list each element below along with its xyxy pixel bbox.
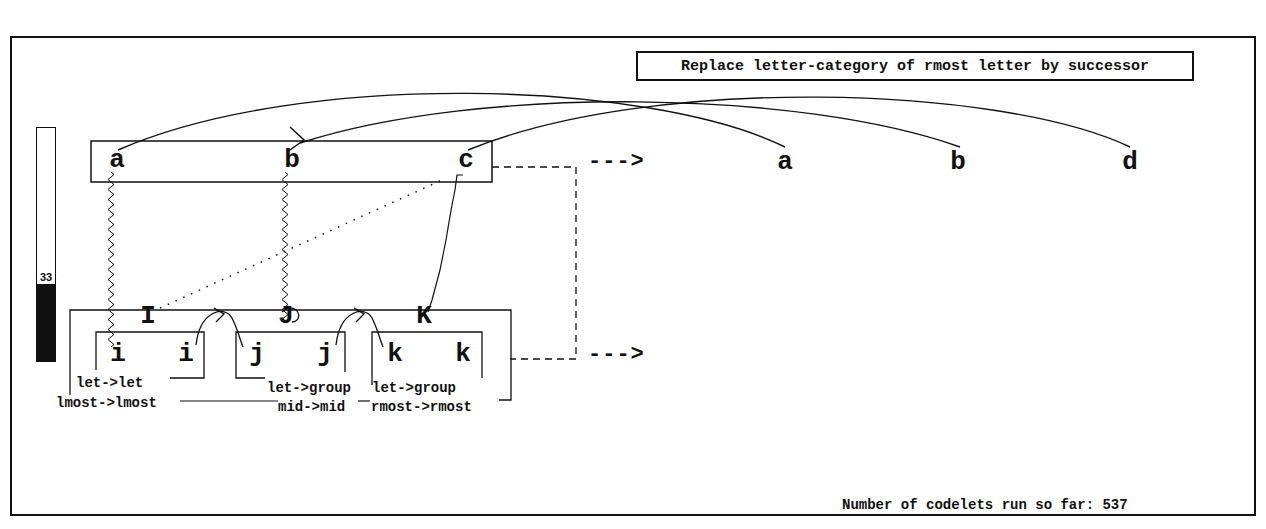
target-letter-j2: j bbox=[317, 341, 333, 367]
target-letter-k2: k bbox=[455, 341, 471, 367]
group-letter-J: J bbox=[278, 303, 294, 329]
group-letter-I: I bbox=[140, 303, 156, 329]
codelets-counter: Number of codelets run so far: 537 bbox=[842, 497, 1128, 513]
target-letter-i2: i bbox=[178, 341, 194, 367]
label-i-letter: let->let bbox=[76, 376, 143, 390]
target-letter-j1: j bbox=[249, 341, 265, 367]
label-k-position: rmost->rmost bbox=[371, 400, 472, 414]
dotted-correspondence-line bbox=[160, 180, 442, 308]
modified-letter-b: b bbox=[950, 149, 966, 175]
initial-letter-c: c bbox=[458, 147, 474, 173]
modified-letter-d: d bbox=[1122, 149, 1138, 175]
group-bond-jk bbox=[336, 311, 383, 347]
label-j-position: mid->mid bbox=[278, 400, 345, 414]
group-letter-K: K bbox=[416, 303, 432, 329]
label-k-letter: let->group bbox=[372, 381, 456, 395]
correspondence-line-b bbox=[282, 172, 288, 322]
label-i-position: lmost->lmost bbox=[56, 396, 157, 410]
rule-arc-c bbox=[468, 97, 1130, 150]
initial-letter-b: b bbox=[284, 147, 300, 173]
correspondence-line-c bbox=[428, 175, 463, 312]
label-j-letter: let->group bbox=[267, 381, 351, 395]
target-letter-i1: i bbox=[110, 341, 126, 367]
workspace-diagram bbox=[0, 0, 1266, 529]
top-arrow: ---> bbox=[588, 151, 645, 173]
target-letter-k1: k bbox=[387, 341, 403, 367]
correspondence-line-a bbox=[108, 172, 114, 347]
bottom-arrow: ---> bbox=[588, 344, 645, 366]
dashed-connector bbox=[492, 167, 576, 359]
modified-letter-a: a bbox=[777, 149, 793, 175]
initial-letter-a: a bbox=[109, 147, 125, 173]
